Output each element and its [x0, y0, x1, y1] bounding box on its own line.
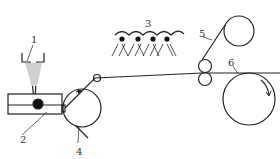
film-web	[65, 73, 280, 108]
process-diagram: 1 2 3 4 5 6	[0, 0, 280, 159]
casting-drum	[63, 89, 101, 127]
nip-roll-top	[199, 60, 212, 73]
hopper	[22, 53, 44, 100]
label-2: 2	[20, 134, 26, 145]
winding-roll	[223, 73, 275, 125]
label-1: 1	[31, 34, 37, 45]
scraper-blade	[76, 126, 88, 138]
label-5: 5	[199, 28, 205, 39]
label-6: 6	[228, 57, 234, 68]
extruder-block	[8, 94, 65, 114]
take-up-roll	[224, 16, 254, 46]
label-3: 3	[145, 18, 151, 29]
spray-nozzles	[112, 31, 184, 56]
nip-roll-bottom	[199, 73, 212, 86]
label-4: 4	[76, 146, 82, 157]
